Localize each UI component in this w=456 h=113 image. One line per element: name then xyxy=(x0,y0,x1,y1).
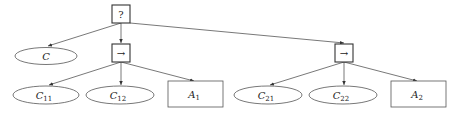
condition-node-c21: C21 xyxy=(234,86,302,104)
root-label: ? xyxy=(118,9,123,20)
edge-root-c xyxy=(48,23,121,46)
seq2-label: → xyxy=(340,48,349,59)
edge-seq1-a1 xyxy=(121,62,194,81)
sequence-node-1: → xyxy=(112,44,130,62)
c12-sub: 12 xyxy=(117,95,126,103)
a2-label: A xyxy=(410,89,418,100)
edges xyxy=(48,23,417,85)
behavior-tree-diagram: ? C → → C11 C12 A1 C21 C22 A2 xyxy=(0,0,456,113)
c-label: C xyxy=(42,51,50,62)
condition-node-c11: C11 xyxy=(13,86,79,104)
action-node-a2: A2 xyxy=(391,81,446,107)
edge-seq2-c21 xyxy=(270,62,344,85)
condition-node-c: C xyxy=(15,48,77,65)
edge-root-seq2 xyxy=(130,23,344,43)
edge-seq2-a2 xyxy=(344,62,417,81)
c22-sub: 22 xyxy=(340,95,349,103)
a1-label: A xyxy=(187,89,195,100)
fallback-node-root: ? xyxy=(112,5,130,23)
c11-sub: 11 xyxy=(43,95,52,103)
edge-seq1-c11 xyxy=(49,62,121,85)
action-node-a1: A1 xyxy=(168,81,223,107)
c21-sub: 21 xyxy=(265,95,274,103)
seq1-label: → xyxy=(117,48,126,59)
condition-node-c12: C12 xyxy=(86,86,154,104)
sequence-node-2: → xyxy=(335,44,353,62)
a1-sub: 1 xyxy=(195,94,199,102)
a2-sub: 2 xyxy=(418,94,422,102)
condition-node-c22: C22 xyxy=(309,86,377,104)
